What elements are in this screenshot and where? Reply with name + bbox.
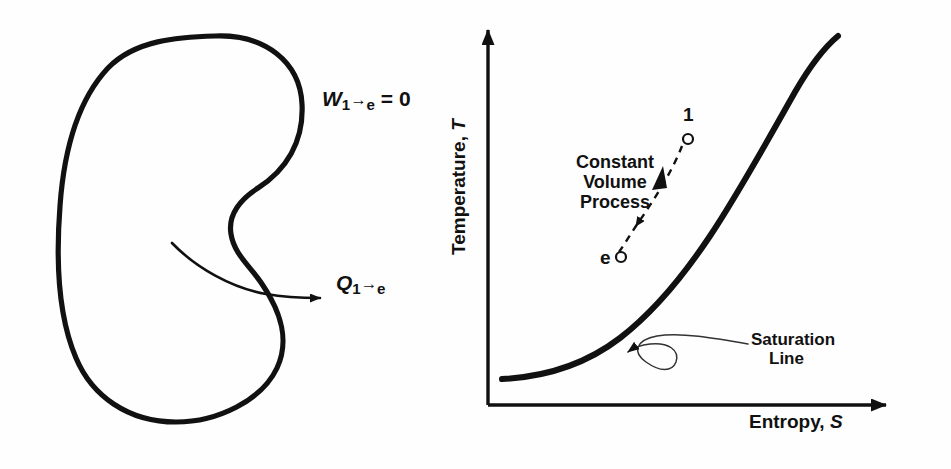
heat-arrow-glyph: → bbox=[361, 274, 377, 292]
heat-subscript-e: e bbox=[377, 280, 385, 297]
saturation-line-curve bbox=[502, 36, 838, 379]
state-point-e-label: e bbox=[600, 248, 611, 269]
state-point-1-marker bbox=[683, 134, 693, 144]
figure-drawing-layer bbox=[0, 0, 951, 469]
state-point-e-marker bbox=[616, 252, 626, 262]
work-equals-zero: = 0 bbox=[375, 87, 411, 110]
state-point-1-label: 1 bbox=[683, 105, 694, 126]
saturation-callout-leader bbox=[628, 335, 748, 370]
saturation-line-label: Saturation Line bbox=[751, 330, 835, 369]
heat-symbol: Q bbox=[336, 271, 352, 294]
saturation-label-line-1: Saturation bbox=[751, 330, 835, 349]
work-label: W1→e = 0 bbox=[322, 88, 411, 114]
thermodynamics-figure: W1→e = 0 Q1→e Temperature, T Entropy, S … bbox=[0, 0, 951, 469]
work-subscript-1: 1 bbox=[342, 96, 350, 113]
closed-system-boundary-outline bbox=[58, 36, 302, 422]
x-axis-label-symbol: S bbox=[830, 411, 843, 432]
y-axis-label-text: Temperature, bbox=[448, 131, 469, 255]
heat-label: Q1→e bbox=[336, 272, 386, 298]
process-label-line-1: Constant bbox=[576, 152, 654, 172]
y-axis-label: Temperature, T bbox=[449, 0, 470, 255]
x-axis-label-text: Entropy, bbox=[749, 411, 830, 432]
x-axis-label: Entropy, S bbox=[749, 412, 843, 433]
process-direction-arrowhead bbox=[652, 166, 667, 190]
heat-transfer-arrow bbox=[172, 243, 320, 298]
heat-subscript-1: 1 bbox=[352, 280, 360, 297]
y-axis-label-symbol: T bbox=[448, 119, 469, 131]
process-label-line-3: Process bbox=[576, 192, 654, 212]
work-symbol: W bbox=[322, 87, 342, 110]
process-label-line-2: Volume bbox=[576, 172, 654, 192]
work-subscript-e: e bbox=[367, 96, 375, 113]
work-arrow-glyph: → bbox=[350, 90, 366, 108]
constant-volume-process-label: Constant Volume Process bbox=[576, 152, 654, 212]
saturation-label-line-2: Line bbox=[751, 349, 835, 368]
